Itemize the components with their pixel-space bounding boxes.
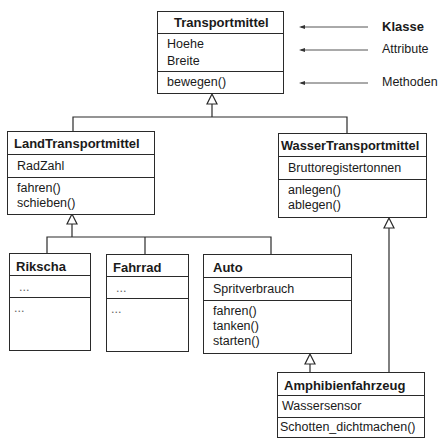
- attribute: Wassersensor: [282, 397, 424, 416]
- method: fahren(): [213, 304, 351, 319]
- attribute: Bruttoregistertonnen: [288, 159, 426, 178]
- class-name: Fahrrad: [107, 255, 188, 277]
- inheritance-arrow-icon: [207, 94, 217, 104]
- class-attributes: Wassersensor: [278, 396, 424, 418]
- legend-label-methoden: Methoden: [382, 75, 438, 89]
- class-name: WasserTransportmittel: [279, 134, 426, 157]
- legend-label-attribute: Attribute: [382, 42, 429, 56]
- class-methods: ...: [10, 298, 90, 316]
- class-methods: Schotten_dichtmachen(): [278, 418, 424, 435]
- class-amphibienfahrzeug: Amphibienfahrzeug Wassersensor Schotten_…: [277, 372, 425, 438]
- class-attributes: Spritverbrauch: [204, 278, 351, 301]
- class-wassertransportmittel: WasserTransportmittel Bruttoregistertonn…: [278, 133, 427, 218]
- method: bewegen(): [167, 75, 283, 90]
- legend-arrow-icon: [299, 48, 305, 52]
- method: ...: [14, 301, 90, 316]
- class-name: LandTransportmittel: [8, 132, 154, 155]
- method: schieben(): [17, 196, 154, 211]
- class-fahrrad: Fahrrad ... ...: [106, 254, 189, 352]
- legend-label-klasse: Klasse: [382, 19, 424, 34]
- method: tanken(): [213, 319, 351, 334]
- method: ablegen(): [288, 198, 426, 213]
- attribute: ...: [19, 278, 90, 297]
- class-attributes: RadZahl: [8, 155, 154, 178]
- inheritance-arrow-icon: [384, 218, 394, 228]
- class-methods: bewegen(): [158, 72, 283, 90]
- inheritance-arrow-icon: [67, 214, 77, 224]
- attribute: Breite: [167, 53, 283, 70]
- class-methods: anlegen() ablegen(): [279, 180, 426, 213]
- legend-arrow-icon: [299, 25, 305, 29]
- method: ...: [111, 302, 188, 317]
- class-auto: Auto Spritverbrauch fahren() tanken() st…: [203, 254, 352, 354]
- class-methods: fahren() tanken() starten(): [204, 301, 351, 349]
- class-name: Transportmittel: [158, 12, 283, 34]
- method: starten(): [213, 334, 351, 349]
- class-name: Rikscha: [10, 254, 90, 276]
- class-rikscha: Rikscha ... ...: [9, 253, 91, 351]
- class-attributes: Hoehe Breite: [158, 34, 283, 72]
- attribute: Spritverbrauch: [213, 280, 351, 299]
- class-name: Auto: [204, 255, 351, 278]
- method: Schotten_dichtmachen(): [280, 420, 424, 435]
- class-landtransportmittel: LandTransportmittel RadZahl fahren() sch…: [7, 131, 155, 215]
- legend-arrow-icon: [299, 81, 305, 85]
- class-transportmittel: Transportmittel Hoehe Breite bewegen(): [157, 11, 284, 94]
- class-attributes: ...: [10, 276, 90, 298]
- class-methods: fahren() schieben(): [8, 178, 154, 211]
- method: fahren(): [17, 181, 154, 196]
- inheritance-arrow-icon: [305, 354, 315, 364]
- attribute: ...: [116, 279, 188, 298]
- attribute: RadZahl: [17, 157, 154, 176]
- method: anlegen(): [288, 183, 426, 198]
- class-methods: ...: [107, 299, 188, 317]
- class-name: Amphibienfahrzeug: [278, 373, 424, 396]
- class-attributes: ...: [107, 277, 188, 299]
- class-attributes: Bruttoregistertonnen: [279, 157, 426, 180]
- attribute: Hoehe: [167, 36, 283, 53]
